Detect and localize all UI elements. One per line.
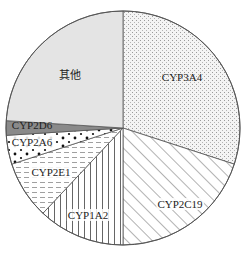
slice-label: 其他 bbox=[59, 69, 81, 82]
slice-label: CYP2D6 bbox=[12, 119, 53, 131]
slice-label: CYP3A4 bbox=[162, 71, 203, 83]
slice-label: CYP2C19 bbox=[157, 198, 203, 210]
slice-label: CYP1A2 bbox=[68, 209, 108, 221]
slice-label: CYP2E1 bbox=[31, 166, 70, 178]
pie-chart: CYP3A4CYP2C19CYP1A2CYP2E1CYP2A6CYP2D6其他 bbox=[0, 0, 243, 255]
slice-label: CYP2A6 bbox=[12, 136, 53, 148]
